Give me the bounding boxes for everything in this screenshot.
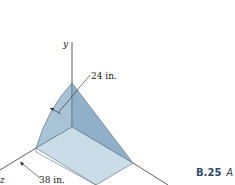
z-axis — [0, 148, 36, 170]
y-axis-label: y — [63, 40, 68, 49]
x-axis — [133, 163, 168, 185]
solid-diagram — [0, 0, 235, 185]
arrowhead-icon — [20, 162, 24, 166]
figure-number: B.25 — [196, 167, 221, 178]
dim-24-label: 24 in. — [91, 72, 117, 81]
figure-caption: B.25A — [196, 167, 233, 178]
dim-38-label: 38 in. — [39, 176, 65, 185]
figure-b25: y z 24 in. 38 in. B.25A — [0, 0, 235, 185]
z-axis-label: z — [0, 176, 5, 185]
caption-text: A — [226, 167, 233, 178]
